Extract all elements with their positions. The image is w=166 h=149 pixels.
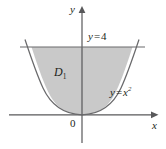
- region-label-subscript: 1: [63, 72, 67, 81]
- curve-label-operator: =: [115, 86, 123, 98]
- x-axis-label: x: [152, 120, 157, 131]
- level-label-rhs: 4: [101, 30, 107, 42]
- curve-label: y=x2: [110, 86, 131, 98]
- x-axis-arrow-icon: [151, 111, 159, 118]
- figure-canvas: [0, 0, 166, 149]
- y-axis-arrow-icon: [79, 6, 86, 13]
- origin-label: 0: [70, 118, 76, 129]
- curve-label-exponent: 2: [128, 85, 131, 92]
- level-label-operator: =: [93, 30, 101, 42]
- region-label-d1: D1: [54, 66, 66, 81]
- math-figure: y x 0 y=4 y=x2 D1: [0, 0, 166, 149]
- level-line-label: y=4: [88, 31, 107, 42]
- region-label-name: D: [54, 65, 63, 79]
- y-axis-label: y: [70, 4, 75, 15]
